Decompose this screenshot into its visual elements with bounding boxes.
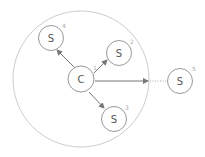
center-node-index: 1 <box>93 64 97 71</box>
svg-text:S: S <box>116 48 122 59</box>
server-node-5: S 5 <box>168 65 197 94</box>
svg-text:S: S <box>177 76 183 87</box>
svg-text:2: 2 <box>130 38 134 45</box>
edge-c-to-s4 <box>57 50 75 68</box>
svg-text:3: 3 <box>125 104 129 111</box>
edge-c-to-s3 <box>89 92 104 108</box>
server-node-3: S 3 <box>102 104 130 132</box>
server-node-2: S 2 <box>107 38 135 66</box>
svg-text:S: S <box>111 114 117 125</box>
center-node: C 1 <box>68 64 97 92</box>
svg-text:4: 4 <box>62 22 66 29</box>
svg-text:5: 5 <box>192 65 196 72</box>
network-range-diagram: C 1 S 4 S 2 S 3 S 5 <box>0 0 205 157</box>
svg-text:S: S <box>48 33 54 44</box>
center-node-label: C <box>78 74 85 85</box>
server-node-4: S 4 <box>39 22 67 51</box>
